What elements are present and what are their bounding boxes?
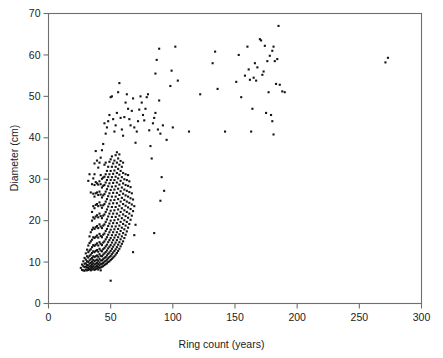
data-point <box>113 169 115 171</box>
data-point <box>91 229 93 231</box>
data-point <box>111 248 113 250</box>
data-point <box>90 231 92 233</box>
data-point <box>106 208 108 210</box>
data-point <box>101 207 103 209</box>
data-point <box>103 203 105 205</box>
data-point <box>116 222 118 224</box>
data-point <box>199 93 201 95</box>
data-point <box>106 244 108 246</box>
data-point <box>97 237 99 239</box>
data-point <box>103 164 105 166</box>
data-point <box>120 238 122 240</box>
data-point <box>169 85 171 87</box>
data-point <box>148 129 150 131</box>
data-point <box>115 225 117 227</box>
data-point <box>117 91 119 93</box>
data-point <box>107 215 109 217</box>
data-point <box>110 220 112 222</box>
data-point <box>121 197 123 199</box>
data-point <box>153 117 155 119</box>
data-point <box>126 201 128 203</box>
data-point <box>117 208 119 210</box>
data-point <box>387 57 389 59</box>
data-point <box>108 161 110 163</box>
data-point <box>126 93 128 95</box>
data-point <box>125 225 127 227</box>
data-point <box>271 50 273 52</box>
data-point <box>159 133 161 135</box>
data-point <box>111 216 113 218</box>
data-point <box>118 82 120 84</box>
data-point <box>122 203 124 205</box>
data-point <box>121 186 123 188</box>
data-point <box>151 157 153 159</box>
data-point <box>96 214 98 216</box>
data-point <box>134 224 136 226</box>
data-point <box>115 124 117 126</box>
data-point <box>91 239 93 241</box>
data-point <box>117 177 119 179</box>
data-point <box>146 96 148 98</box>
data-point <box>121 243 123 245</box>
data-point <box>93 162 95 164</box>
data-point <box>130 208 132 210</box>
scatter-plot-figure: 050100150200250300 010203040506070 Ring … <box>0 0 443 358</box>
data-point <box>126 211 128 213</box>
data-point <box>97 184 99 186</box>
data-point <box>125 173 127 175</box>
data-point <box>115 166 117 168</box>
data-point <box>106 198 108 200</box>
data-point <box>86 249 88 251</box>
data-point <box>103 240 105 242</box>
data-point <box>80 267 82 269</box>
data-point <box>125 102 127 104</box>
data-point <box>238 54 240 56</box>
data-point <box>142 114 144 116</box>
data-point <box>116 192 118 194</box>
data-point <box>270 114 272 116</box>
x-tick-label: 100 <box>164 311 182 323</box>
data-point <box>106 188 108 190</box>
data-point <box>120 211 122 213</box>
data-point <box>120 190 122 192</box>
data-point <box>108 222 110 224</box>
data-point <box>177 80 179 82</box>
data-point <box>126 190 128 192</box>
data-point <box>112 192 114 194</box>
data-point <box>87 244 89 246</box>
data-point <box>110 189 112 191</box>
data-point <box>158 99 160 101</box>
data-point <box>276 58 278 60</box>
data-point <box>120 117 122 119</box>
data-point <box>122 193 124 195</box>
data-point <box>118 241 120 243</box>
data-point <box>132 97 134 99</box>
data-point <box>115 154 117 156</box>
data-point <box>130 197 132 199</box>
data-point <box>143 119 145 121</box>
data-point <box>112 202 114 204</box>
data-point <box>108 203 110 205</box>
data-point <box>103 193 105 195</box>
data-point <box>246 46 248 48</box>
data-point <box>107 225 109 227</box>
data-point <box>214 51 216 53</box>
data-point <box>127 185 129 187</box>
data-point <box>108 182 110 184</box>
data-point <box>111 166 113 168</box>
data-point <box>110 237 112 239</box>
data-point <box>125 194 127 196</box>
data-point <box>133 126 135 128</box>
data-point <box>117 250 119 252</box>
data-point <box>105 201 107 203</box>
data-point <box>120 170 122 172</box>
data-point <box>96 191 98 193</box>
data-point <box>123 228 125 230</box>
data-point <box>120 180 122 182</box>
data-point <box>271 120 273 122</box>
data-point <box>116 252 118 254</box>
data-point <box>174 46 176 48</box>
data-point <box>125 184 127 186</box>
data-point <box>118 248 120 250</box>
data-point <box>158 48 160 50</box>
